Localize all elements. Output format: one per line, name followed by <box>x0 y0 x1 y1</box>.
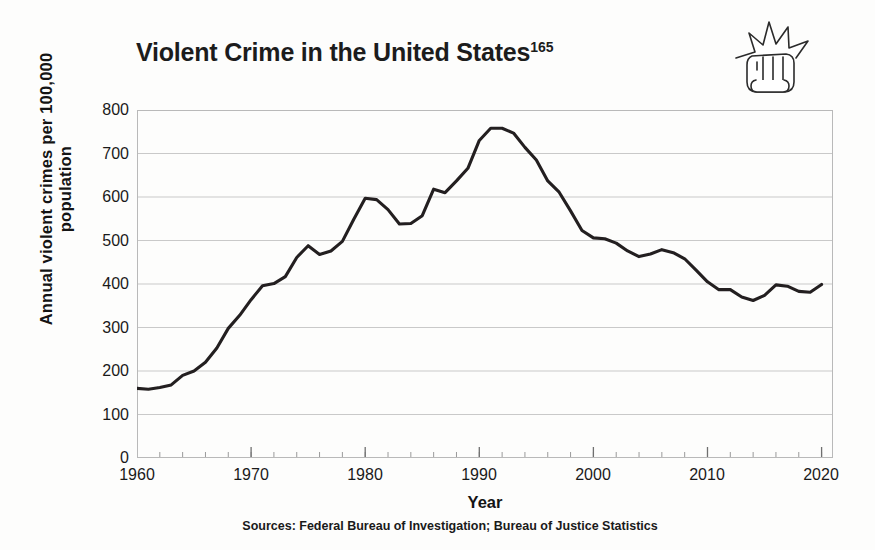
y-tick-label: 300 <box>81 319 129 337</box>
y-tick-label: 700 <box>81 145 129 163</box>
y-tick-label: 500 <box>81 232 129 250</box>
footnote-marker: 165 <box>530 39 553 55</box>
y-tick-label: 800 <box>81 101 129 119</box>
x-tick-label: 1980 <box>330 466 400 484</box>
y-axis-ticks: 800 700 600 500 400 300 200 100 0 <box>77 110 129 458</box>
y-tick-label: 400 <box>81 275 129 293</box>
x-tick-label: 2020 <box>786 466 856 484</box>
chart-title-text: Violent Crime in the United States <box>136 38 530 66</box>
y-tick-label: 200 <box>81 362 129 380</box>
x-tick-label: 1960 <box>102 466 172 484</box>
line-chart-svg <box>137 110 833 458</box>
violent-crime-series-line <box>137 128 822 389</box>
x-tick-label: 2010 <box>672 466 742 484</box>
x-tick-label: 1990 <box>444 466 514 484</box>
page-title: Violent Crime in the United States165 <box>136 38 696 67</box>
y-tick-label: 100 <box>81 406 129 424</box>
source-note: Sources: Federal Bureau of Investigation… <box>100 519 800 533</box>
x-tick-label: 2000 <box>558 466 628 484</box>
y-axis-title: Annual violent crimes per 100,000 popula… <box>37 9 75 369</box>
x-tick-label: 1970 <box>216 466 286 484</box>
x-major-ticks <box>137 447 822 458</box>
gridlines <box>137 154 833 415</box>
plot-area <box>137 110 833 458</box>
x-axis-title: Year <box>137 493 833 512</box>
y-tick-label: 0 <box>81 449 129 467</box>
chart-figure: Violent Crime in the United States165 An… <box>0 0 875 550</box>
x-axis-ticks: 1960 1970 1980 1990 2000 2010 2020 <box>137 466 837 492</box>
y-tick-label: 600 <box>81 188 129 206</box>
fist-punch-icon <box>722 14 818 106</box>
